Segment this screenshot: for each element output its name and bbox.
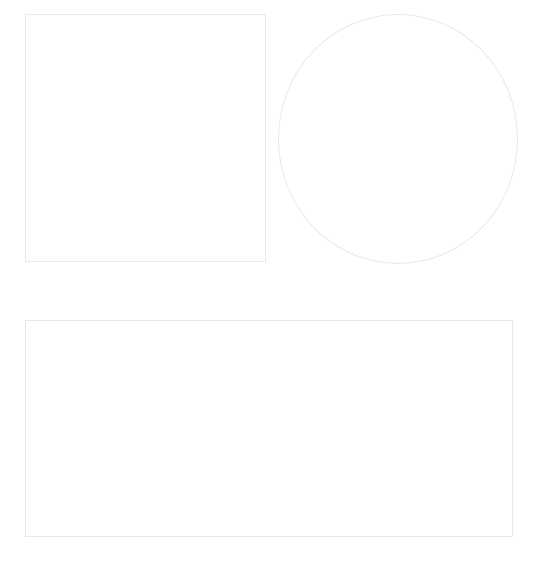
- rectangle-shape[interactable]: Rectangle: [25, 320, 513, 537]
- circle-shape[interactable]: Circle: [278, 14, 518, 264]
- shape-canvas: Square Circle Rectangle: [0, 0, 541, 571]
- circle-shape-label: Circle: [278, 14, 279, 15]
- rectangle-shape-label: Rectangle: [25, 320, 26, 321]
- square-shape-label: Square: [25, 14, 26, 15]
- square-shape[interactable]: Square: [25, 14, 266, 262]
